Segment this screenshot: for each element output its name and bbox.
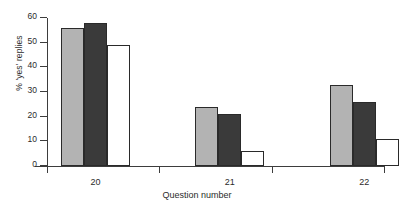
y-axis-line — [47, 18, 48, 166]
y-axis-tick: 40 — [40, 66, 47, 67]
bar-q22-series-2 — [353, 102, 376, 166]
plot-area: 0102030405060 202122 — [47, 18, 384, 166]
x-axis-category-label: 22 — [359, 177, 369, 187]
x-axis-category-label: 21 — [225, 177, 235, 187]
bar-q20-series-1 — [61, 28, 84, 166]
x-axis-group-tick — [159, 166, 160, 173]
y-axis-tick: 60 — [40, 17, 47, 18]
bar-q22-series-3 — [376, 139, 399, 166]
y-axis-tick-label: 40 — [28, 60, 37, 70]
bar-q21-series-2 — [218, 114, 241, 166]
y-axis-tick: 10 — [40, 140, 47, 141]
y-axis-title: % 'yes' replies — [14, 8, 24, 118]
x-axis-title: Question number — [0, 190, 394, 200]
bar-q20-series-2 — [84, 23, 107, 166]
y-axis-tick-label: 0 — [32, 159, 37, 169]
x-axis-group-tick — [47, 166, 48, 173]
y-axis-tick-label: 30 — [28, 85, 37, 95]
y-axis-tick-label: 60 — [28, 11, 37, 21]
y-axis-tick-label: 10 — [28, 134, 37, 144]
x-axis-category-label: 20 — [90, 177, 100, 187]
bar-q21-series-1 — [195, 107, 218, 166]
y-axis-tick: 0 — [40, 165, 47, 166]
x-axis-group-tick — [272, 166, 273, 173]
bar-q21-series-3 — [241, 151, 264, 166]
x-axis-group-tick — [384, 166, 385, 173]
y-axis-tick: 50 — [40, 42, 47, 43]
y-axis-tick-label: 50 — [28, 36, 37, 46]
bar-q22-series-1 — [330, 85, 353, 166]
y-axis-tick: 30 — [40, 91, 47, 92]
bar-q20-series-3 — [107, 45, 130, 166]
y-axis-tick-label: 20 — [28, 110, 37, 120]
x-axis-line — [35, 166, 384, 167]
y-axis-tick: 20 — [40, 116, 47, 117]
